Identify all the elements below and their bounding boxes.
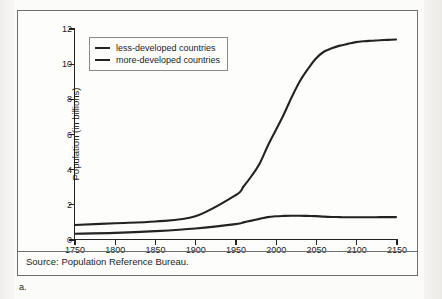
y-tick-label: 2 [67,200,72,209]
chart-legend: less-developed countries more-developed … [89,37,228,71]
source-caption: Source: Population Reference Bureau. [26,257,189,267]
figure-panel: Population (in billions) 024681012 17501… [17,10,418,276]
scan-edge-right [424,0,442,299]
legend-item-less-developed-countries: less-developed countries [95,42,220,54]
legend-label: less-developed countries [116,44,216,53]
y-tick-label: 0 [67,236,72,245]
legend-item-more-developed-countries: more-developed countries [95,54,220,66]
plot-area: Population (in billions) 024681012 17501… [74,29,396,240]
line-more-developed-countries [75,216,396,234]
source-divider [18,251,417,252]
y-tick-label: 8 [67,95,72,104]
legend-label: more-developed countries [116,56,220,65]
legend-swatch-icon [95,59,110,61]
y-tick-label: 10 [62,60,72,69]
legend-swatch-icon [95,47,110,49]
figure-label: a. [19,283,27,292]
y-tick-label: 12 [62,25,72,34]
y-tick-label: 6 [67,130,72,139]
y-tick-label: 4 [67,165,72,174]
scan-edge-left [0,0,14,299]
